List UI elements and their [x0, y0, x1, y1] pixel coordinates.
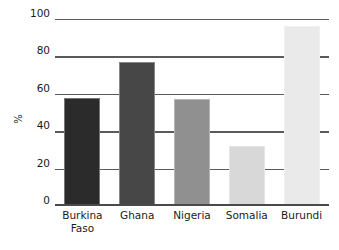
bar-nigeria[interactable] — [174, 99, 210, 206]
x-tick-label: Ghana — [110, 209, 165, 235]
bar-somalia[interactable] — [229, 146, 265, 206]
bar-slot — [274, 19, 329, 206]
y-axis-tick-labels: 020406080100 — [22, 13, 50, 206]
x-tick-label: Somalia — [219, 209, 274, 235]
bar-slot — [110, 19, 165, 206]
bar-burundi[interactable] — [284, 26, 320, 206]
bar-slot — [219, 19, 274, 206]
y-tick-label: 0 — [22, 194, 50, 206]
bar-ghana[interactable] — [119, 62, 155, 206]
y-tick-label: 40 — [22, 119, 50, 131]
x-axis-line — [55, 204, 329, 206]
y-tick-label: 20 — [22, 157, 50, 169]
bar-chart: % 020406080100 Burkina FasoGhanaNigeriaS… — [0, 0, 339, 250]
y-tick-label: 80 — [22, 44, 50, 56]
plot-area — [55, 19, 329, 206]
x-tick-label: Burundi — [274, 209, 329, 235]
bar-slot — [55, 19, 110, 206]
bars-layer — [55, 19, 329, 206]
bar-burkina-faso[interactable] — [64, 98, 100, 206]
y-tick-label: 60 — [22, 82, 50, 94]
y-tick-label: 100 — [22, 7, 50, 19]
x-axis-tick-labels: Burkina FasoGhanaNigeriaSomaliaBurundi — [55, 209, 329, 235]
x-tick-label: Nigeria — [165, 209, 220, 235]
x-tick-label: Burkina Faso — [55, 209, 110, 235]
bar-slot — [165, 19, 220, 206]
